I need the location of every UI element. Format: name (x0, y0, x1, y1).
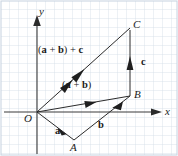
vector-a-plus-b-arrow (37, 96, 130, 112)
plus-sign-2: + (67, 44, 78, 55)
point-label-a: A (70, 142, 77, 153)
vector-label-b: b (98, 120, 104, 131)
vector-label-c: c (141, 57, 146, 68)
point-label-c: C (133, 19, 140, 30)
vector-label-sum: (a + b) + c (38, 45, 83, 56)
y-axis (33, 15, 41, 154)
paren-close: ) (88, 79, 92, 90)
plus-sign: + (47, 44, 58, 55)
point-label-b: B (134, 89, 141, 100)
vector-c-arrow (127, 30, 134, 96)
vector-diagram-lines (0, 0, 178, 156)
vector-label-a-plus-b: (a + b) (62, 80, 91, 91)
bold-c: c (78, 44, 83, 55)
plus-sign: + (71, 79, 82, 90)
origin-label: O (24, 113, 32, 124)
vector-label-a: a (55, 126, 60, 137)
y-axis-label: y (39, 6, 44, 17)
x-axis-label: x (165, 106, 170, 117)
vector-b-arrow (74, 96, 130, 140)
vector-sum-arrow (37, 28, 130, 112)
vector-addition-figure: y x O A B C a b c (a + b) (a + b) + c (0, 0, 178, 156)
